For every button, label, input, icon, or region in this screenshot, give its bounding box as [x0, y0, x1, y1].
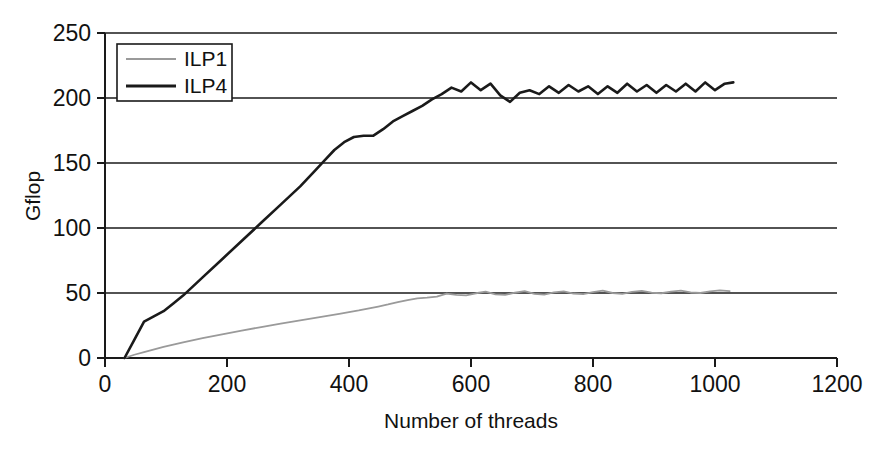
x-tick-label-800: 800: [574, 371, 612, 397]
y-axis-ticks-group: [97, 33, 105, 358]
line-chart-canvas: 050100150200250 020040060080010001200 Gf…: [0, 0, 878, 449]
x-axis-title: Number of threads: [384, 409, 558, 432]
legend-label-ilp1: ILP1: [184, 47, 227, 70]
series-line-ilp4: [125, 82, 734, 358]
x-tick-label-0: 0: [99, 371, 112, 397]
y-tick-label-250: 250: [53, 20, 91, 46]
x-tick-label-1000: 1000: [689, 371, 740, 397]
chart-legend: ILP1 ILP4: [117, 44, 232, 101]
x-axis-tick-labels: 020040060080010001200: [99, 371, 863, 397]
y-tick-label-100: 100: [53, 215, 91, 241]
y-tick-label-150: 150: [53, 150, 91, 176]
data-series-group: [125, 82, 734, 358]
series-line-ilp1: [125, 290, 730, 358]
chart-figure: 050100150200250 020040060080010001200 Gf…: [0, 0, 878, 449]
x-tick-label-1200: 1200: [811, 371, 862, 397]
x-tick-label-200: 200: [208, 371, 246, 397]
y-tick-label-50: 50: [65, 280, 91, 306]
x-tick-label-400: 400: [330, 371, 368, 397]
y-axis-tick-labels: 050100150200250: [53, 20, 91, 371]
y-tick-label-0: 0: [78, 345, 91, 371]
x-axis-ticks-group: [105, 358, 837, 367]
legend-label-ilp4: ILP4: [184, 74, 228, 97]
y-axis-title: Gflop: [21, 171, 44, 221]
x-tick-label-600: 600: [452, 371, 490, 397]
y-tick-label-200: 200: [53, 85, 91, 111]
